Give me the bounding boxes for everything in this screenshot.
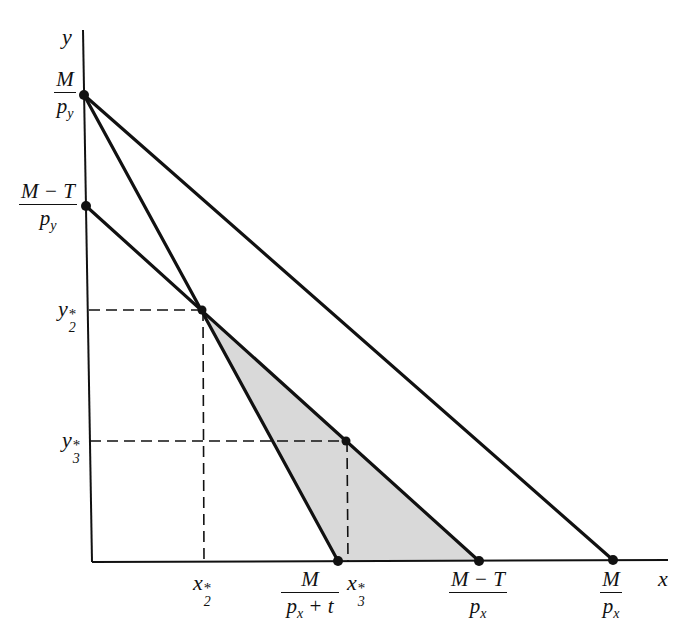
- main: x: [347, 570, 357, 595]
- y-axis-label: y: [62, 26, 72, 48]
- denominator: px: [470, 593, 487, 622]
- numerator: M: [54, 68, 76, 93]
- sub: 2: [69, 322, 77, 335]
- label-MT-over-px: M − T px: [448, 568, 508, 622]
- den-tail: + t: [303, 594, 334, 618]
- denominator: px + t: [286, 593, 333, 622]
- main: y: [58, 296, 68, 321]
- sub-star: *3: [358, 582, 366, 608]
- den-sub: x: [613, 606, 619, 621]
- point-M-over-px: [608, 555, 618, 565]
- point-M-over-px-plus-t: [333, 556, 343, 566]
- den-sub: x: [480, 606, 486, 621]
- label-MT-over-py: M − T py: [18, 180, 78, 234]
- label-x2star: x*2: [193, 572, 211, 608]
- budget-constraint-diagram: [0, 0, 688, 628]
- point-MT-over-px: [474, 556, 484, 566]
- denominator: px: [603, 593, 620, 622]
- excise-tax-budget-line: [84, 95, 338, 561]
- den-sub: y: [50, 218, 56, 233]
- label-M-over-py: M py: [48, 68, 82, 122]
- numerator: M − T: [19, 180, 77, 205]
- sub: 3: [358, 596, 366, 609]
- numerator: M: [600, 568, 622, 593]
- x-axis: [92, 560, 668, 562]
- label-y3star: y*3: [62, 429, 80, 465]
- sub-star: *2: [204, 582, 212, 608]
- den-main: p: [603, 594, 614, 618]
- denominator: py: [57, 93, 74, 122]
- sub: 3: [73, 453, 81, 466]
- x2star-guide: [203, 310, 204, 562]
- den-sub: y: [67, 106, 73, 121]
- point-optimum-2: [198, 306, 207, 315]
- den-main: p: [57, 94, 68, 118]
- numerator: M − T: [449, 568, 507, 593]
- label-x3star: x*3: [347, 572, 365, 608]
- lump-sum-tax-budget-line: [86, 206, 479, 561]
- sub-star: *3: [73, 439, 81, 465]
- den-main: p: [286, 594, 297, 618]
- label-M-over-px-plus-t: M px + t: [280, 568, 340, 622]
- point-MT-over-py: [81, 201, 91, 211]
- denominator: py: [40, 205, 57, 234]
- numerator: M: [281, 568, 339, 593]
- main: y: [62, 427, 72, 452]
- point-optimum-3: [342, 437, 351, 446]
- label-y2star: y*2: [58, 298, 76, 334]
- sub: 2: [204, 596, 212, 609]
- den-main: p: [470, 594, 481, 618]
- sub-star: *2: [69, 308, 77, 334]
- main: x: [193, 570, 203, 595]
- x-axis-label: x: [658, 568, 668, 590]
- den-main: p: [40, 206, 51, 230]
- label-M-over-px: M px: [594, 568, 628, 622]
